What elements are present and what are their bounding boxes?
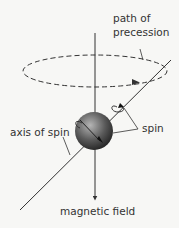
label-magnetic-field: magnetic field [60, 205, 135, 217]
axis-leader-line [63, 137, 70, 155]
label-path-line2: precession [113, 26, 169, 38]
label-path-line1: path of [113, 12, 151, 24]
spinning-nucleus-sphere [75, 112, 113, 150]
label-axis-of-spin: axis of spin [10, 126, 70, 138]
precession-diagram: path of precession axis of spin spin mag… [0, 0, 179, 228]
label-spin: spin [142, 122, 164, 134]
